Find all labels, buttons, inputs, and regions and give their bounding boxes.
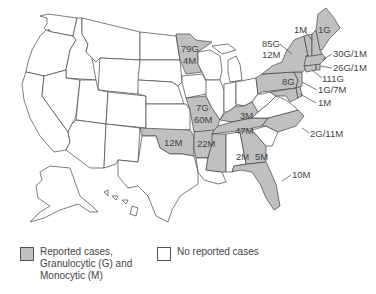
callout-ri: 26G/1M <box>333 62 367 73</box>
leader-ri <box>320 66 332 68</box>
label-ga: 5M <box>255 151 268 162</box>
label-ky: 3M <box>240 110 253 121</box>
legend-reported-line3: Monocytic (M) <box>40 270 132 282</box>
state-ia <box>182 74 208 98</box>
label-pa: 8G <box>282 76 295 87</box>
label-mo-1: 7G <box>196 102 209 113</box>
callout-ma: 30G/1M <box>333 48 367 59</box>
state-nd <box>140 32 180 60</box>
legend-unreported-label: No reported cases <box>177 246 259 258</box>
leader-md <box>300 94 316 103</box>
label-mn-2: 4M <box>183 55 196 66</box>
legend-reported-line1: Reported cases, <box>40 246 132 258</box>
us-map: 79G 4M 7G 60M 12M 22M 47M 3M 8G 2M 5M 1M… <box>0 0 376 230</box>
callout-ny-1: 85G <box>262 38 280 49</box>
state-az <box>66 120 106 168</box>
state-ri <box>316 64 320 70</box>
state-mt <box>82 18 140 62</box>
callout-nc: 2G/11M <box>310 128 343 139</box>
swatch-unreported <box>157 247 171 261</box>
leader-nj <box>302 82 317 90</box>
label-mn-1: 79G <box>181 43 199 54</box>
state-hi <box>104 190 138 216</box>
label-tn: 47M <box>235 125 254 136</box>
swatch-reported <box>20 247 34 261</box>
callout-ct: 111G <box>322 73 344 84</box>
label-ms: 2M <box>236 151 249 162</box>
callout-ny-2: 12M <box>262 49 281 60</box>
state-co <box>106 92 146 128</box>
state-fl <box>232 162 280 210</box>
state-wy <box>98 58 140 94</box>
label-ar: 22M <box>197 138 216 149</box>
callout-nj: 1G/7M <box>318 84 347 95</box>
leader-ct <box>312 70 322 78</box>
callout-fl: 10M <box>292 169 311 180</box>
callout-md: 1M <box>318 97 331 108</box>
callout-vt: 1M <box>294 24 307 35</box>
callout-me: 1G <box>318 24 331 35</box>
leader-nc <box>302 128 309 133</box>
label-ok: 12M <box>164 137 183 148</box>
state-ks <box>146 104 190 130</box>
legend-reported-line2: Granulocytic (G) and <box>40 258 132 270</box>
label-mo-2: 60M <box>194 114 213 125</box>
leader-fl <box>282 175 291 181</box>
